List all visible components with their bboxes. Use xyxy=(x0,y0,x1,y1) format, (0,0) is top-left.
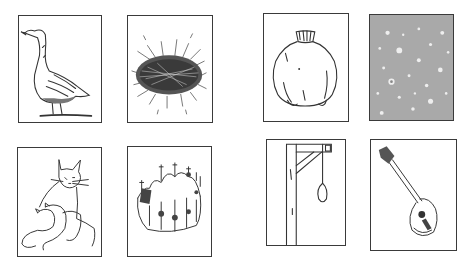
crown-icon xyxy=(128,147,211,256)
card-pomegranate[interactable]: pomegranate xyxy=(263,13,349,122)
card-mandolin[interactable]: mandolin xyxy=(370,139,457,251)
nest-icon xyxy=(128,16,212,122)
pomegranate-icon xyxy=(264,14,348,121)
goose-icon xyxy=(19,16,101,122)
cat-with-kittens-icon xyxy=(18,148,101,256)
card-nest[interactable]: nest xyxy=(127,15,213,123)
mandolin-icon xyxy=(371,140,456,250)
card-rain[interactable]: rain xyxy=(369,14,454,121)
rain-icon xyxy=(370,15,453,120)
card-goose[interactable]: goose xyxy=(18,15,102,123)
card-gallows[interactable]: gallows xyxy=(266,139,346,246)
card-crown[interactable]: crown xyxy=(127,146,212,257)
card-cats[interactable]: cat with kittens xyxy=(17,147,102,257)
gallows-icon xyxy=(267,140,345,245)
